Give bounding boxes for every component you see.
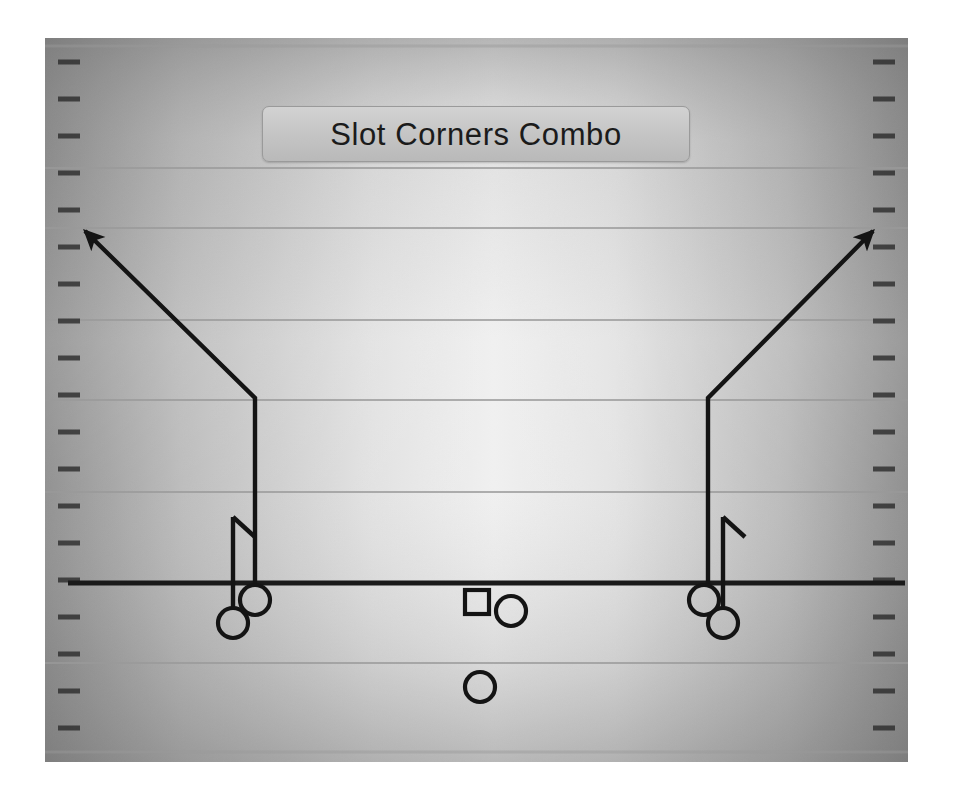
play-title: Slot Corners Combo	[330, 119, 622, 150]
play-title-bar: Slot Corners Combo	[262, 106, 690, 162]
play-diagram-canvas: Slot Corners Combo	[0, 0, 955, 802]
